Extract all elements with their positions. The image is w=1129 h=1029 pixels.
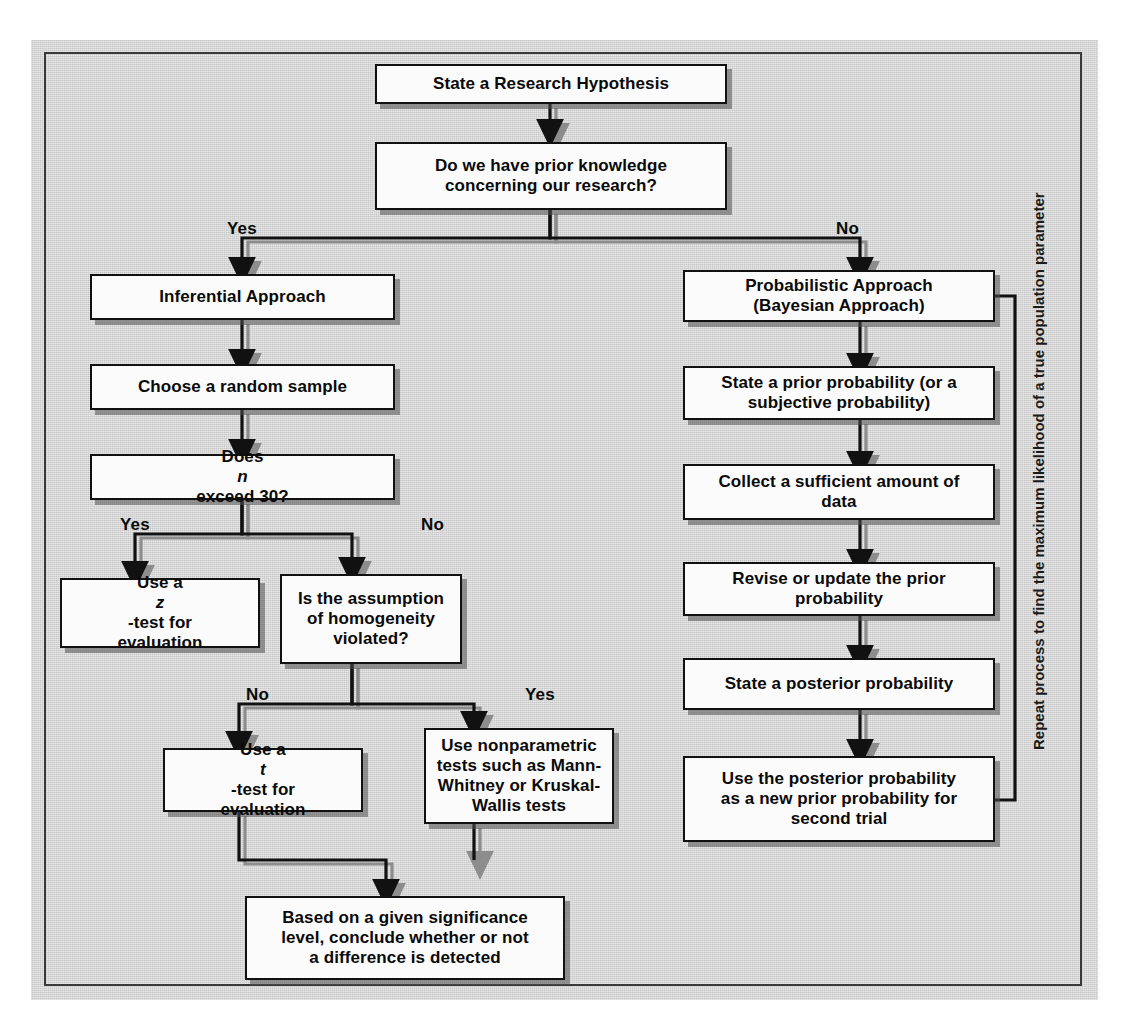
node-label-line2: of homogeneity xyxy=(307,609,435,629)
node-conclusion: Based on a given significance level, con… xyxy=(245,896,565,980)
node-label-line1: Collect a sufficient amount of xyxy=(718,472,959,492)
flowchart-canvas: State a Research Hypothesis Do we have p… xyxy=(0,0,1129,1029)
node-reuse-posterior: Use the posterior probability as a new p… xyxy=(683,756,995,842)
node-label-line1: Probabilistic Approach xyxy=(745,276,933,296)
node-collect-data: Collect a sufficient amount of data xyxy=(683,464,995,520)
branch-label-homogeneity-no: No xyxy=(246,685,269,705)
node-state-posterior: State a posterior probability xyxy=(683,658,995,710)
node-label-line3: a difference is detected xyxy=(309,948,500,968)
node-label-line3: Whitney or Kruskal- xyxy=(438,776,600,796)
node-label: State a Research Hypothesis xyxy=(433,74,669,94)
node-homogeneity-assumption: Is the assumption of homogeneity violate… xyxy=(280,574,462,664)
node-label-line1: Use a t-test for xyxy=(231,740,295,800)
node-label: Does n exceed 30? xyxy=(196,447,289,507)
node-label-line1: Use the posterior probability xyxy=(722,769,956,789)
node-label-line2: concerning our research? xyxy=(445,176,657,196)
node-random-sample: Choose a random sample xyxy=(90,364,395,410)
loop-caption-line1: Repeat process to find the maximum likel… xyxy=(1030,413,1047,750)
node-label-line2: evaluation xyxy=(220,800,305,820)
node-label-line3: violated? xyxy=(333,629,409,649)
node-state-prior-probability: State a prior probability (or a subjecti… xyxy=(683,366,995,420)
node-label-line2: data xyxy=(821,492,856,512)
branch-label-n-no: No xyxy=(421,515,444,535)
branch-label-homogeneity-yes: Yes xyxy=(525,685,555,705)
node-label: Inferential Approach xyxy=(159,287,326,307)
node-label-line1: Use a z-test for xyxy=(128,573,192,633)
node-use-t-test: Use a t-test for evaluation xyxy=(163,748,363,812)
node-label: Choose a random sample xyxy=(138,377,347,397)
branch-label-root-yes: Yes xyxy=(227,219,257,239)
node-label-line2: as a new prior probability for xyxy=(721,789,957,809)
node-label-line1: Do we have prior knowledge xyxy=(435,156,667,176)
node-label-line1: Is the assumption xyxy=(298,589,444,609)
node-probabilistic-approach: Probabilistic Approach (Bayesian Approac… xyxy=(683,270,995,322)
variable-z: z xyxy=(156,593,165,612)
loop-caption: Repeat process to find the maximum likel… xyxy=(1030,300,1049,750)
node-inferential-approach: Inferential Approach xyxy=(90,274,395,320)
node-revise-prior: Revise or update the prior probability xyxy=(683,562,995,616)
node-label-line2: level, conclude whether or not xyxy=(281,928,529,948)
node-label-line2: tests such as Mann- xyxy=(437,756,601,776)
node-label-line2: evaluation xyxy=(117,633,202,653)
node-label-line1: Revise or update the prior xyxy=(732,569,945,589)
loop-caption-line2: of a true population parameter xyxy=(1030,192,1047,409)
branch-label-root-no: No xyxy=(836,219,859,239)
node-state-hypothesis: State a Research Hypothesis xyxy=(375,64,727,104)
branch-label-n-yes: Yes xyxy=(120,515,150,535)
node-label-line2: subjective probability) xyxy=(748,393,931,413)
node-label-line1: State a prior probability (or a xyxy=(721,373,956,393)
node-label-line1: Based on a given significance xyxy=(282,908,528,928)
node-prior-knowledge: Do we have prior knowledge concerning ou… xyxy=(375,142,727,210)
node-does-n-exceed-30: Does n exceed 30? xyxy=(90,454,395,500)
node-label-line2: probability xyxy=(795,589,883,609)
node-label: State a posterior probability xyxy=(725,674,954,694)
node-nonparametric-tests: Use nonparametric tests such as Mann- Wh… xyxy=(424,728,614,824)
node-use-z-test: Use a z-test for evaluation xyxy=(60,578,260,648)
variable-n: n xyxy=(237,467,247,486)
node-label-line2: (Bayesian Approach) xyxy=(753,296,924,316)
variable-t: t xyxy=(260,760,266,779)
node-label-line3: second trial xyxy=(791,809,888,829)
node-label-line4: Wallis tests xyxy=(472,796,566,816)
node-label-line1: Use nonparametric xyxy=(441,736,597,756)
